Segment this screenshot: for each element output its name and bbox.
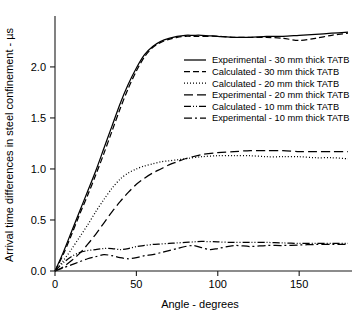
- series-line-2: [55, 156, 348, 271]
- legend-label-0: Experimental - 30 mm thick TATB: [212, 55, 349, 65]
- chart-legend: Experimental - 30 mm thick TATBCalculate…: [184, 55, 349, 123]
- legend-label-3: Experimental - 20 mm thick TATB: [212, 90, 349, 100]
- x-ticks: 050100150: [52, 271, 308, 290]
- series-line-4: [55, 241, 348, 271]
- series-line-3: [55, 151, 348, 271]
- y-tick-label-3: 1.5: [31, 112, 46, 124]
- x-axis-title: Angle - degrees: [161, 298, 239, 310]
- legend-label-2: Calculated - 20 mm thick TATB: [212, 79, 339, 89]
- legend-label-5: Experimental - 10 mm thick TATB: [212, 113, 349, 123]
- y-tick-label-1: 0.5: [31, 214, 46, 226]
- line-chart: 0.00.51.01.52.0 050100150 Angle - degree…: [0, 0, 363, 317]
- y-axis-title: Arrival time differences in steel confin…: [3, 27, 15, 262]
- x-tick-label-1: 50: [130, 278, 142, 290]
- legend-label-1: Calculated - 30 mm thick TATB: [212, 67, 339, 77]
- y-tick-label-0: 0.0: [31, 265, 46, 277]
- y-tick-label-2: 1.0: [31, 163, 46, 175]
- series-line-5: [55, 244, 348, 271]
- y-tick-label-4: 2.0: [31, 61, 46, 73]
- legend-label-4: Calculated - 10 mm thick TATB: [212, 102, 339, 112]
- y-ticks: 0.00.51.01.52.0: [31, 61, 55, 277]
- x-tick-label-0: 0: [52, 278, 58, 290]
- chart-figure: 0.00.51.01.52.0 050100150 Angle - degree…: [0, 0, 363, 317]
- axes-layer: [55, 16, 352, 271]
- x-tick-label-2: 100: [209, 278, 227, 290]
- x-tick-label-3: 150: [290, 278, 308, 290]
